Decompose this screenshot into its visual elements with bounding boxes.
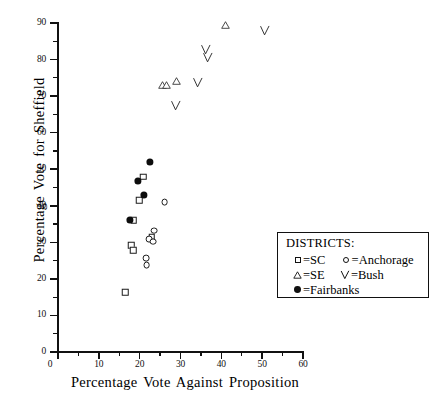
legend-label-bush: Bush bbox=[358, 268, 384, 283]
check-marker-icon bbox=[176, 106, 182, 112]
x-tick-minor-35 bbox=[200, 351, 201, 356]
filled-circle-marker-icon bbox=[147, 158, 154, 165]
y-tick-80 bbox=[50, 59, 58, 61]
filled-circle-icon bbox=[292, 282, 303, 297]
legend-eq-anchorage: = bbox=[352, 253, 359, 268]
check-marker-icon bbox=[208, 58, 214, 64]
y-axis-title-wrapper: Percentage Vote for Sheffield bbox=[30, 30, 50, 310]
y-tick-10 bbox=[50, 315, 58, 317]
y-tick-minor-75 bbox=[53, 77, 58, 78]
y-tick-70 bbox=[50, 95, 58, 97]
y-tick-label-90: 90 bbox=[24, 17, 46, 27]
open-circle-marker-icon bbox=[143, 262, 150, 269]
x-tick-minor-55 bbox=[282, 351, 283, 356]
x-tick-label-40: 40 bbox=[209, 359, 233, 369]
x-tick-50 bbox=[261, 351, 263, 359]
y-tick-20 bbox=[50, 278, 58, 280]
legend-title: DISTRICTS: bbox=[286, 236, 355, 251]
filled-circle-marker-icon bbox=[141, 191, 148, 198]
legend-label-sc: SC bbox=[310, 253, 325, 268]
y-tick-label-10: 10 bbox=[24, 309, 46, 319]
open-circle-marker-icon bbox=[143, 255, 150, 262]
y-axis-title: Percentage Vote for Sheffield bbox=[31, 77, 47, 262]
open-square-marker-icon bbox=[122, 289, 129, 296]
open-circle-marker-icon bbox=[150, 238, 157, 245]
x-tick-label-0: 0 bbox=[38, 359, 62, 369]
scatter-plot-figure: 01020304050607080900102030405060 Percent… bbox=[0, 0, 441, 409]
open-triangle-icon bbox=[292, 267, 303, 282]
open-square-marker-icon bbox=[131, 217, 138, 224]
legend-row-2: =SE =Bush bbox=[292, 267, 384, 283]
open-circle-marker-icon bbox=[161, 199, 168, 206]
check-marker-icon bbox=[264, 31, 270, 37]
x-tick-10 bbox=[98, 351, 100, 359]
open-square-marker-icon bbox=[140, 173, 147, 180]
legend-entry-sc: =SC bbox=[292, 252, 325, 268]
filled-circle-marker-icon bbox=[134, 178, 141, 185]
y-tick-minor-65 bbox=[53, 114, 58, 115]
legend-entry-fairbanks: =Fairbanks bbox=[292, 282, 359, 298]
filled-circle-marker-icon bbox=[126, 216, 133, 223]
x-axis-title: Percentage Vote Against Proposition bbox=[25, 374, 345, 391]
x-tick-minor-25 bbox=[159, 351, 160, 356]
y-tick-30 bbox=[50, 242, 58, 244]
legend-entry-se: =SE bbox=[292, 267, 325, 283]
open-square-marker-icon bbox=[130, 247, 137, 254]
y-tick-label-0: 0 bbox=[24, 346, 46, 356]
y-tick-minor-85 bbox=[53, 41, 58, 42]
y-tick-minor-25 bbox=[53, 260, 58, 261]
check-icon bbox=[340, 267, 351, 282]
x-tick-label-10: 10 bbox=[87, 359, 111, 369]
x-tick-minor-5 bbox=[78, 351, 79, 356]
x-tick-label-30: 30 bbox=[169, 359, 193, 369]
legend-entry-bush: =Bush bbox=[340, 267, 384, 283]
x-tick-20 bbox=[139, 351, 141, 359]
x-tick-label-60: 60 bbox=[291, 359, 315, 369]
y-tick-50 bbox=[50, 168, 58, 170]
legend-eq-fairbanks: = bbox=[303, 283, 310, 298]
legend-eq-bush: = bbox=[351, 268, 358, 283]
check-marker-icon bbox=[206, 49, 212, 55]
y-tick-minor-45 bbox=[53, 187, 58, 188]
open-square-marker-icon bbox=[128, 242, 135, 249]
x-tick-40 bbox=[221, 351, 223, 359]
legend-row-1: =SC =Anchorage bbox=[292, 252, 414, 268]
y-tick-minor-5 bbox=[53, 333, 58, 334]
y-tick-minor-55 bbox=[53, 150, 58, 151]
open-square-icon bbox=[292, 252, 303, 267]
y-tick-minor-35 bbox=[53, 223, 58, 224]
y-tick-40 bbox=[50, 205, 58, 207]
legend-eq-sc: = bbox=[303, 253, 310, 268]
x-tick-minor-45 bbox=[241, 351, 242, 356]
x-tick-label-50: 50 bbox=[250, 359, 274, 369]
open-square-marker-icon bbox=[149, 234, 156, 241]
legend-label-anchorage: Anchorage bbox=[359, 253, 414, 268]
open-circle-icon bbox=[341, 252, 352, 267]
x-tick-minor-15 bbox=[119, 351, 120, 356]
check-marker-icon bbox=[198, 82, 204, 88]
open-circle-marker-icon bbox=[146, 236, 153, 243]
legend-eq-se: = bbox=[303, 268, 310, 283]
x-tick-60 bbox=[302, 351, 304, 359]
legend-box: DISTRICTS: =SC =Anchorage =SE =Bush =Fai… bbox=[277, 232, 429, 298]
x-tick-30 bbox=[180, 351, 182, 359]
y-tick-minor-15 bbox=[53, 297, 58, 298]
x-tick-label-20: 20 bbox=[128, 359, 152, 369]
y-tick-60 bbox=[50, 132, 58, 134]
legend-row-3: =Fairbanks bbox=[292, 282, 359, 298]
legend-label-fairbanks: Fairbanks bbox=[310, 283, 359, 298]
x-tick-0 bbox=[57, 351, 59, 359]
y-tick-90 bbox=[50, 22, 58, 24]
plot-area bbox=[0, 0, 441, 409]
open-square-marker-icon bbox=[136, 197, 143, 204]
legend-label-se: SE bbox=[310, 268, 325, 283]
legend-entry-anchorage: =Anchorage bbox=[341, 252, 414, 268]
open-circle-marker-icon bbox=[151, 227, 158, 234]
